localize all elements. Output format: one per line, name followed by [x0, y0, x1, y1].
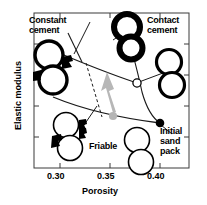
xtick-label-0: 0.30 — [47, 171, 65, 181]
x-axis-title: Porosity — [82, 186, 118, 196]
contact-cement-pack-icon — [114, 14, 143, 60]
xtick-label-2: 0.40 — [147, 171, 165, 181]
label-initial-sand-pack: Initial sand pack — [160, 126, 182, 156]
y-axis-title: Elastic modulus — [13, 61, 23, 130]
xtick-label-1: 0.35 — [97, 171, 115, 181]
label-contact-cement: Contact cement — [147, 15, 179, 35]
label-friable: Friable — [89, 141, 117, 151]
gray-circle-marker — [109, 112, 117, 120]
label-constant-cement: Constant cement — [29, 15, 66, 35]
open-circle-marker — [133, 79, 141, 87]
